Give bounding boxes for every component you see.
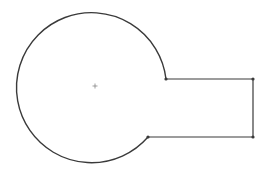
vertex-point[interactable] xyxy=(164,77,167,80)
vertex-point[interactable] xyxy=(146,135,149,138)
center-mark-icon xyxy=(93,84,98,89)
circle-arc[interactable] xyxy=(17,13,166,163)
vertex-points xyxy=(146,77,254,138)
vertex-point[interactable] xyxy=(251,77,254,80)
vertex-point[interactable] xyxy=(251,135,254,138)
sketch-canvas xyxy=(0,0,264,170)
